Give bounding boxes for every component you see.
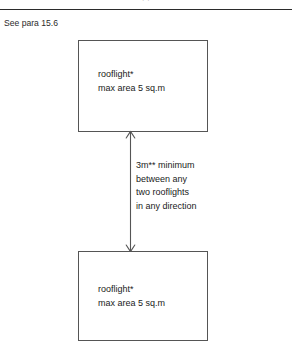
rooflight-upper-line1: rooflight* <box>98 68 165 82</box>
dimension-note-line3: two rooflights <box>136 186 197 200</box>
dimension-note: 3m** minimum between any two rooflights … <box>136 159 197 213</box>
rooflight-box-upper: rooflight* max area 5 sq.m <box>78 40 208 132</box>
dimension-note-line2: between any <box>136 173 197 187</box>
page-caption: See para 15.6 <box>4 17 58 29</box>
running-header-cutoff: · · <box>0 0 292 5</box>
header-divider <box>0 9 292 10</box>
rooflight-lower-line1: rooflight* <box>98 283 165 297</box>
rooflight-box-lower: rooflight* max area 5 sq.m <box>78 251 208 341</box>
rooflight-lower-line2: max area 5 sq.m <box>98 297 165 311</box>
rooflight-upper-line2: max area 5 sq.m <box>98 82 165 96</box>
dimension-note-line1: 3m** minimum <box>136 159 197 173</box>
dimension-note-line4: in any direction <box>136 200 197 214</box>
rooflight-lower-label: rooflight* max area 5 sq.m <box>98 283 165 310</box>
rooflight-upper-label: rooflight* max area 5 sq.m <box>98 68 165 95</box>
diagram-page: · · See para 15.6 rooflight* max area 5 … <box>0 0 292 346</box>
